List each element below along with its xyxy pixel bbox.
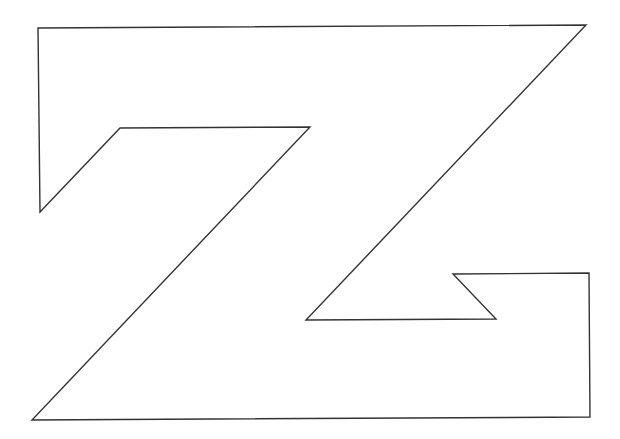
diagram-canvas <box>0 0 620 439</box>
z-shape-svg <box>0 0 620 439</box>
z-letter-outline <box>32 25 590 420</box>
